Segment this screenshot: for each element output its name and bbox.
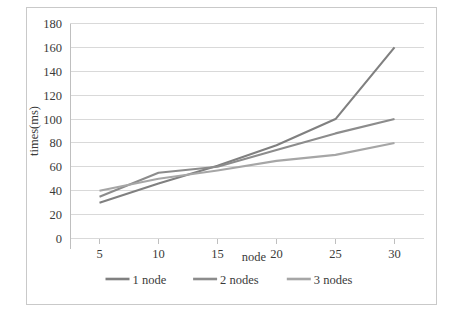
legend-item[interactable]: 2 nodes <box>193 273 259 287</box>
gridline-group <box>70 24 424 239</box>
legend-item[interactable]: 3 nodes <box>287 273 353 287</box>
series-group <box>100 47 395 202</box>
x-tick-label: 30 <box>388 247 401 261</box>
y-tick-label: 20 <box>50 208 63 222</box>
y-tick-label: 80 <box>50 136 63 150</box>
x-tick-label: 20 <box>270 247 283 261</box>
y-tick-label-group: 020406080100120140160180 <box>43 17 62 246</box>
series-line-2-nodes <box>100 119 395 197</box>
x-tick-label: 25 <box>329 247 342 261</box>
x-tick-label: 10 <box>152 247 165 261</box>
legend-label-3-nodes: 3 nodes <box>314 273 353 287</box>
chart-figure: 020406080100120140160180 51015202530 tim… <box>0 0 464 319</box>
y-axis-title: times(ms) <box>27 106 41 156</box>
x-tick-label: 15 <box>211 247 224 261</box>
y-tick-label: 120 <box>43 89 62 103</box>
y-tick-label: 40 <box>50 184 63 198</box>
y-tick-label: 180 <box>43 17 62 31</box>
y-tick-label: 60 <box>50 160 63 174</box>
x-tick-label: 5 <box>96 247 102 261</box>
legend-item[interactable]: 1 node <box>106 273 167 287</box>
legend-label-1-node: 1 node <box>133 273 167 287</box>
chart-plot-wrapper: 020406080100120140160180 51015202530 tim… <box>0 0 464 319</box>
y-tick-label: 0 <box>56 232 62 246</box>
legend-label-2-nodes: 2 nodes <box>220 273 259 287</box>
chart-legend: 1 node2 nodes3 nodes <box>106 273 353 287</box>
y-tick-label: 140 <box>43 65 62 79</box>
axis-title-group: times(ms)node <box>27 106 267 264</box>
x-axis-title: node <box>242 250 267 264</box>
y-tick-label: 160 <box>43 41 62 55</box>
y-tick-label: 100 <box>43 113 62 127</box>
line-chart: 020406080100120140160180 51015202530 tim… <box>0 0 464 319</box>
